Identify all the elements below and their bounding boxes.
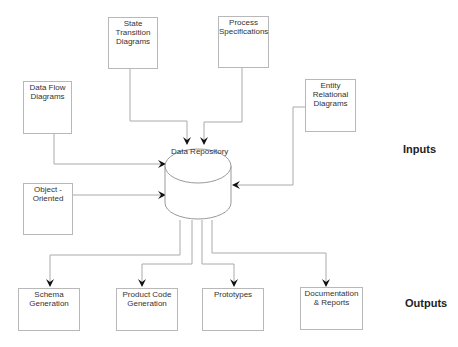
output-box-prototypes: Prototypes: [202, 288, 264, 331]
input-box-object-oriented: Object - Oriented: [23, 183, 73, 235]
data-repository-cylinder: [165, 149, 231, 219]
output-box-schema-generation: Schema Generation: [18, 288, 80, 331]
input-box-process-specifications: Process Specifications: [218, 16, 269, 68]
inputs-section-label: Inputs: [403, 143, 436, 155]
output-box-documentation-reports: Documentation & Reports: [300, 287, 363, 330]
output-box-product-code-generation: Product Code Generation: [116, 288, 178, 331]
input-box-entity-relational: Entity Relational Diagrams: [305, 79, 356, 132]
input-box-state-transition: State Transition Diagrams: [108, 17, 158, 69]
input-box-data-flow-diagrams: Data Flow Diagrams: [23, 81, 72, 134]
outputs-section-label: Outputs: [405, 297, 447, 309]
data-repository-label: Data Repository: [171, 147, 228, 156]
